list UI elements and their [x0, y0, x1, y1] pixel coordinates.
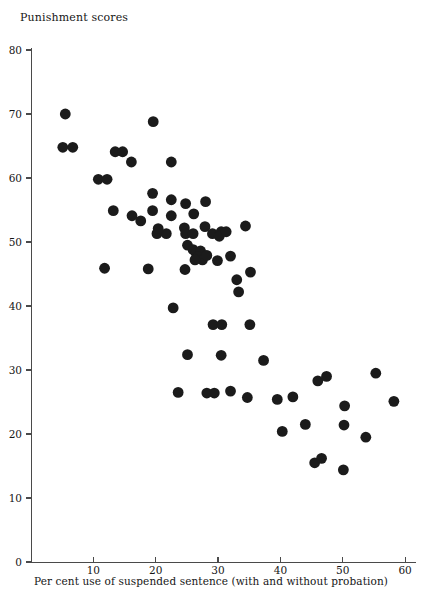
data-point [117, 146, 128, 157]
data-point [370, 368, 381, 379]
data-point [108, 205, 119, 216]
data-point [168, 303, 179, 314]
x-axis-label: Per cent use of suspended sentence (with… [34, 575, 388, 587]
data-point [201, 250, 212, 261]
y-tick-label-20: 20 [9, 428, 22, 440]
data-point [148, 116, 159, 127]
data-point [244, 319, 255, 330]
data-point [166, 157, 177, 168]
data-point [126, 157, 137, 168]
data-point [225, 386, 236, 397]
data-point [316, 453, 327, 464]
data-point [67, 142, 78, 153]
data-point [242, 392, 253, 403]
data-point [200, 196, 211, 207]
data-point [147, 188, 158, 199]
y-tick-label-0: 0 [15, 556, 22, 568]
plot-canvas: 01020304050607080 102030405060 [0, 0, 424, 604]
data-point [153, 223, 164, 234]
data-point [180, 264, 191, 275]
data-point [166, 210, 177, 221]
data-point [221, 226, 232, 237]
data-point [339, 400, 350, 411]
data-point [57, 142, 68, 153]
y-tick-label-70: 70 [9, 108, 22, 120]
data-point [216, 319, 227, 330]
data-point [272, 394, 283, 405]
data-point [258, 355, 269, 366]
y-tick-label-10: 10 [9, 492, 22, 504]
data-point [173, 387, 184, 398]
data-point [60, 109, 71, 120]
y-tick-label-80: 80 [9, 44, 22, 56]
data-point [209, 388, 220, 399]
data-point [212, 255, 223, 266]
data-point [338, 464, 349, 475]
scatter-plot-figure: Punishment scores 01020304050607080 1020… [0, 0, 424, 604]
data-point [225, 251, 236, 262]
data-point [231, 274, 242, 285]
data-point [245, 267, 256, 278]
x-tick-group: 102030405060 [87, 557, 412, 577]
data-point [188, 208, 199, 219]
data-point [188, 228, 199, 239]
data-point [287, 391, 298, 402]
y-tick-group: 01020304050607080 [9, 44, 32, 568]
data-point [180, 198, 191, 209]
y-tick-label-50: 50 [9, 236, 22, 248]
data-point [135, 215, 146, 226]
data-point [147, 205, 158, 216]
data-point [99, 263, 110, 274]
axes-group [31, 48, 416, 563]
data-points-group [57, 109, 399, 476]
data-point [240, 221, 251, 232]
data-point [300, 419, 311, 430]
data-point [321, 371, 332, 382]
data-point [233, 287, 244, 298]
data-point [182, 349, 193, 360]
data-point [190, 255, 201, 266]
data-point [166, 194, 177, 205]
data-point [102, 174, 113, 185]
x-tick-label-60: 60 [398, 564, 411, 576]
data-point [277, 426, 288, 437]
data-point [388, 396, 399, 407]
data-point [339, 420, 350, 431]
data-point [360, 432, 371, 443]
data-point [216, 350, 227, 361]
y-tick-label-60: 60 [9, 172, 22, 184]
data-point [143, 263, 154, 274]
y-tick-label-30: 30 [9, 364, 22, 376]
y-tick-label-40: 40 [9, 300, 22, 312]
